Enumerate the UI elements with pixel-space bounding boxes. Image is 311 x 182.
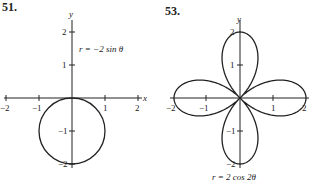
tick-label: −1 <box>199 103 209 113</box>
tick-label: 1 <box>271 103 276 113</box>
tick-label: 2 <box>230 27 235 37</box>
tick-label: 1 <box>62 60 67 70</box>
tick-label: 1 <box>103 103 108 113</box>
tick-label: −2 <box>0 103 10 113</box>
tick-label: 1 <box>230 60 235 70</box>
tick-label: −1 <box>226 126 236 136</box>
plots: y x −2 −1 1 2 2 1 −1 −2 r = −2 sin θ y −… <box>0 0 311 182</box>
y-label-left: y <box>68 9 73 19</box>
tick-label: −1 <box>58 126 68 136</box>
tick-label: 2 <box>62 27 67 37</box>
tick-label: −2 <box>166 103 176 113</box>
x-label-left: x <box>142 93 147 103</box>
equation-left: r = −2 sin θ <box>79 44 124 54</box>
tick-label: −1 <box>32 103 42 113</box>
tick-label: −2 <box>58 159 68 169</box>
tick-label: 2 <box>302 103 307 113</box>
tick-label: −2 <box>226 159 236 169</box>
tick-label: 2 <box>135 103 140 113</box>
equation-right: r = 2 cos 2θ <box>212 172 257 182</box>
y-label-right: y <box>236 14 241 24</box>
